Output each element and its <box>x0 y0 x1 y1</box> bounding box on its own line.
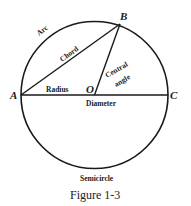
circle-diagram: A B C O Arc Chord Radius Central angle D… <box>0 0 191 206</box>
point-o-label: O <box>86 83 94 95</box>
chord-line <box>21 24 120 95</box>
point-a-label: A <box>9 89 17 101</box>
figure-caption: Figure 1-3 <box>70 188 120 202</box>
point-b-label: B <box>119 10 127 22</box>
diameter-label: Diameter <box>86 99 117 108</box>
arc-label: Arc <box>35 23 50 38</box>
semicircle-label: Semicircle <box>80 174 114 183</box>
radius-label: Radius <box>46 85 69 94</box>
point-c-label: C <box>170 89 178 101</box>
